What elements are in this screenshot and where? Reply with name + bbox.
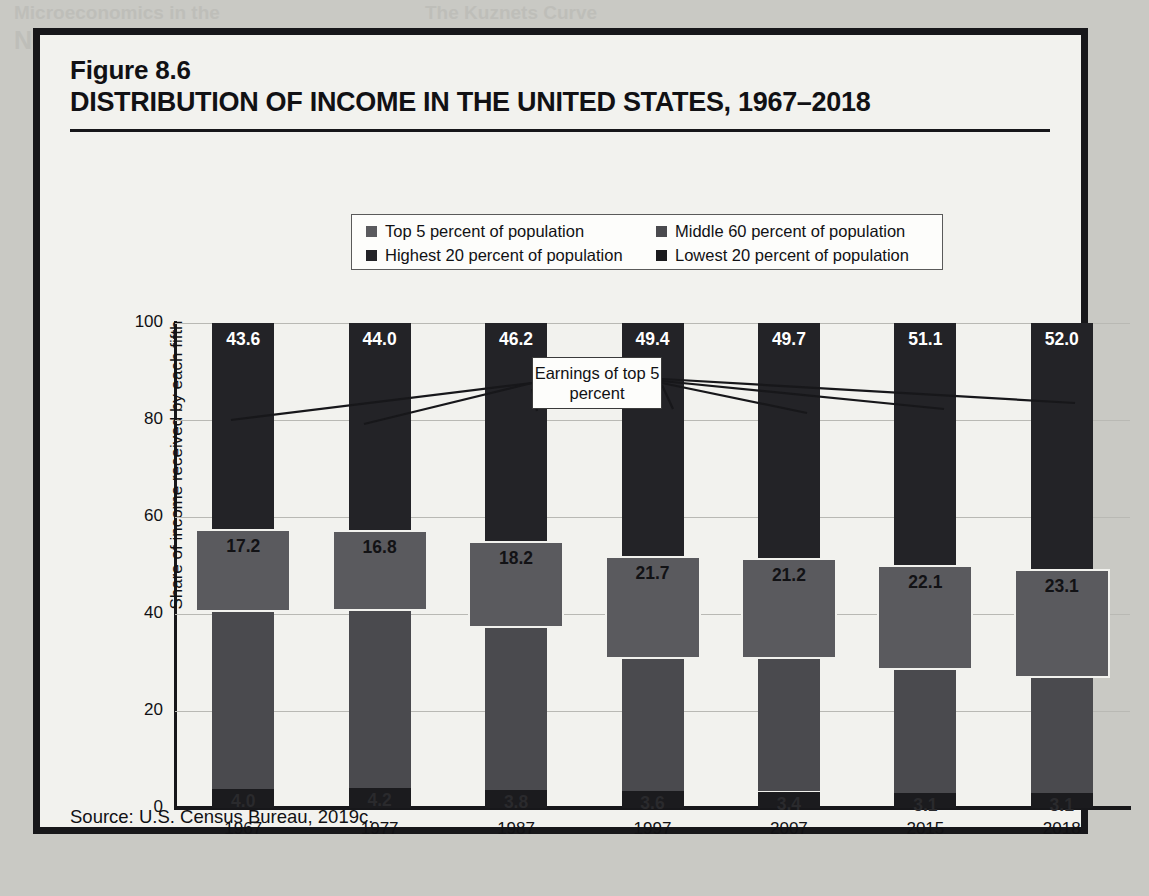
value-label-highest20: 49.4 xyxy=(622,329,684,350)
legend-swatch-lowest20 xyxy=(656,250,667,261)
top5-overlay-box: 16.8 xyxy=(332,530,428,611)
chart-legend: Top 5 percent of population Middle 60 pe… xyxy=(351,214,943,270)
bar-segment-highest20 xyxy=(894,323,956,571)
legend-label-highest20: Highest 20 percent of population xyxy=(385,246,623,265)
value-label-highest20: 44.0 xyxy=(349,329,411,350)
x-axis-tick-label: 1977 xyxy=(340,819,420,839)
bar-segment-highest20 xyxy=(1031,323,1093,575)
value-label-lowest20: 3.4 xyxy=(758,794,820,815)
value-label-highest20: 46.2 xyxy=(485,329,547,350)
figure-container: Figure 8.6 DISTRIBUTION OF INCOME IN THE… xyxy=(33,28,1088,834)
value-label-top5: 17.2 xyxy=(197,536,289,557)
bar-segment-highest20 xyxy=(212,323,274,534)
title-divider xyxy=(70,129,1050,132)
top5-overlay-box: 21.2 xyxy=(741,558,837,659)
figure-label: Figure 8.6 xyxy=(70,55,191,86)
value-label-highest20: 49.7 xyxy=(758,329,820,350)
value-label-top5: 23.1 xyxy=(1016,576,1108,597)
legend-item-lowest20: Lowest 20 percent of population xyxy=(656,243,936,267)
value-label-top5: 18.2 xyxy=(470,548,562,569)
y-axis-tick-label: 60 xyxy=(117,506,163,526)
x-axis-tick-label: 2015 xyxy=(885,819,965,839)
top5-overlay-box: 21.7 xyxy=(605,556,701,659)
legend-swatch-top5 xyxy=(366,226,377,237)
figure-title: DISTRIBUTION OF INCOME IN THE UNITED STA… xyxy=(70,87,870,118)
plot-area: Earnings of top 5 percent 43.652.34.017.… xyxy=(175,323,1130,808)
legend-label-middle60: Middle 60 percent of population xyxy=(675,222,905,241)
value-label-lowest20: 3.6 xyxy=(622,793,684,814)
top5-overlay-box: 23.1 xyxy=(1014,569,1110,678)
x-axis-tick-label: 1997 xyxy=(613,819,693,839)
legend-label-lowest20: Lowest 20 percent of population xyxy=(675,246,909,265)
y-axis-tick-label: 40 xyxy=(117,603,163,623)
callout-text: Earnings of top 5 percent xyxy=(533,363,661,403)
y-axis-tick-label: 20 xyxy=(117,700,163,720)
value-label-top5: 16.8 xyxy=(334,537,426,558)
legend-swatch-highest20 xyxy=(366,250,377,261)
stacked-bar: 52.045.03.1 xyxy=(1031,323,1093,808)
legend-item-middle60: Middle 60 percent of population xyxy=(656,219,936,243)
bar-segment-highest20 xyxy=(349,323,411,536)
callout-box: Earnings of top 5 percent xyxy=(532,357,662,409)
x-axis-tick-label: 2018 xyxy=(1022,819,1102,839)
value-label-highest20: 51.1 xyxy=(894,329,956,350)
x-axis-tick-label: 1987 xyxy=(476,819,556,839)
value-label-lowest20: 3.8 xyxy=(485,792,547,813)
bar-segment-highest20 xyxy=(758,323,820,564)
value-label-top5: 22.1 xyxy=(879,572,971,593)
y-axis-tick-label: 0 xyxy=(117,797,163,817)
value-label-highest20: 52.0 xyxy=(1031,329,1093,350)
top5-overlay-box: 22.1 xyxy=(877,565,973,670)
top5-overlay-box: 18.2 xyxy=(468,541,564,628)
value-label-top5: 21.7 xyxy=(607,563,699,584)
legend-item-highest20: Highest 20 percent of population xyxy=(366,243,656,267)
y-axis-tick-label: 80 xyxy=(117,409,163,429)
value-label-lowest20: 3.1 xyxy=(894,795,956,816)
y-axis-tick-label: 100 xyxy=(117,312,163,332)
x-axis-tick-label: 1967 xyxy=(203,819,283,839)
legend-item-top5: Top 5 percent of population xyxy=(366,219,656,243)
value-label-lowest20: 3.1 xyxy=(1031,795,1093,816)
legend-swatch-middle60 xyxy=(656,226,667,237)
x-axis-tick-label: 2007 xyxy=(749,819,829,839)
top5-overlay-box: 17.2 xyxy=(195,529,291,612)
value-label-highest20: 43.6 xyxy=(212,329,274,350)
legend-label-top5: Top 5 percent of population xyxy=(385,222,584,241)
value-label-top5: 21.2 xyxy=(743,565,835,586)
